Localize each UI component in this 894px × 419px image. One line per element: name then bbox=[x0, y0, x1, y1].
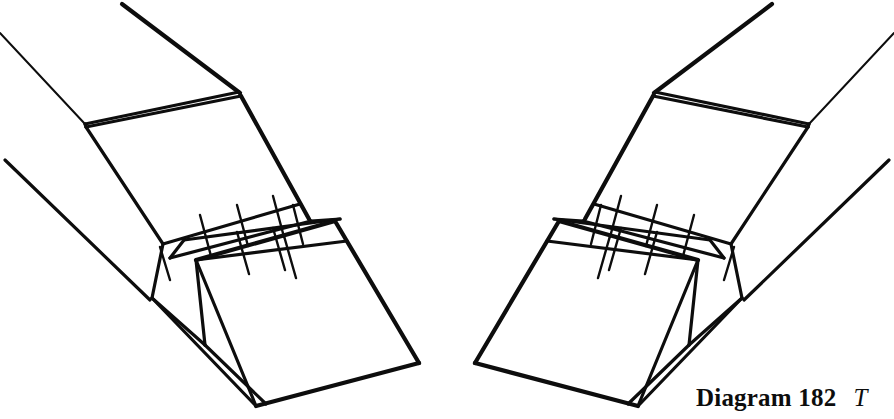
left-gusset-inner-edge bbox=[152, 244, 163, 298]
caption-label: Diagram 182 bbox=[696, 384, 836, 411]
right-upper-panel-left-edge bbox=[731, 127, 808, 244]
diagram-caption: Diagram 182T bbox=[696, 385, 867, 410]
left-figure bbox=[0, 4, 419, 406]
right-gusset-inner-edge bbox=[731, 244, 742, 298]
left-flap-right-edge bbox=[335, 221, 419, 363]
diagram-page: Diagram 182T bbox=[0, 0, 894, 419]
left-fold-lip-bottom bbox=[86, 96, 241, 127]
right-strip-far-edge bbox=[809, 33, 894, 124]
diagram-artwork bbox=[0, 0, 894, 419]
right-flap-right-edge bbox=[475, 221, 559, 363]
right-fold-lip-bottom bbox=[653, 96, 808, 127]
left-strip-lower-edge bbox=[5, 160, 150, 300]
right-fold-lip-top bbox=[655, 92, 809, 124]
left-strip-far-edge bbox=[0, 33, 85, 124]
left-flap-bottom-edge bbox=[256, 363, 419, 406]
right-stitch-mark-7 bbox=[598, 236, 610, 278]
left-stitch-mark-7 bbox=[284, 236, 296, 278]
left-upper-panel-left-edge bbox=[86, 127, 163, 244]
left-fold-lip-top bbox=[85, 92, 239, 124]
right-strip-upper-edge bbox=[654, 4, 772, 93]
right-strip-lower-edge bbox=[744, 160, 889, 300]
caption-title: T bbox=[853, 384, 867, 411]
right-figure bbox=[475, 4, 894, 406]
right-flap-bottom-edge bbox=[475, 363, 638, 406]
left-strip-upper-edge bbox=[122, 4, 240, 93]
left-underpanel-edge bbox=[152, 298, 256, 406]
